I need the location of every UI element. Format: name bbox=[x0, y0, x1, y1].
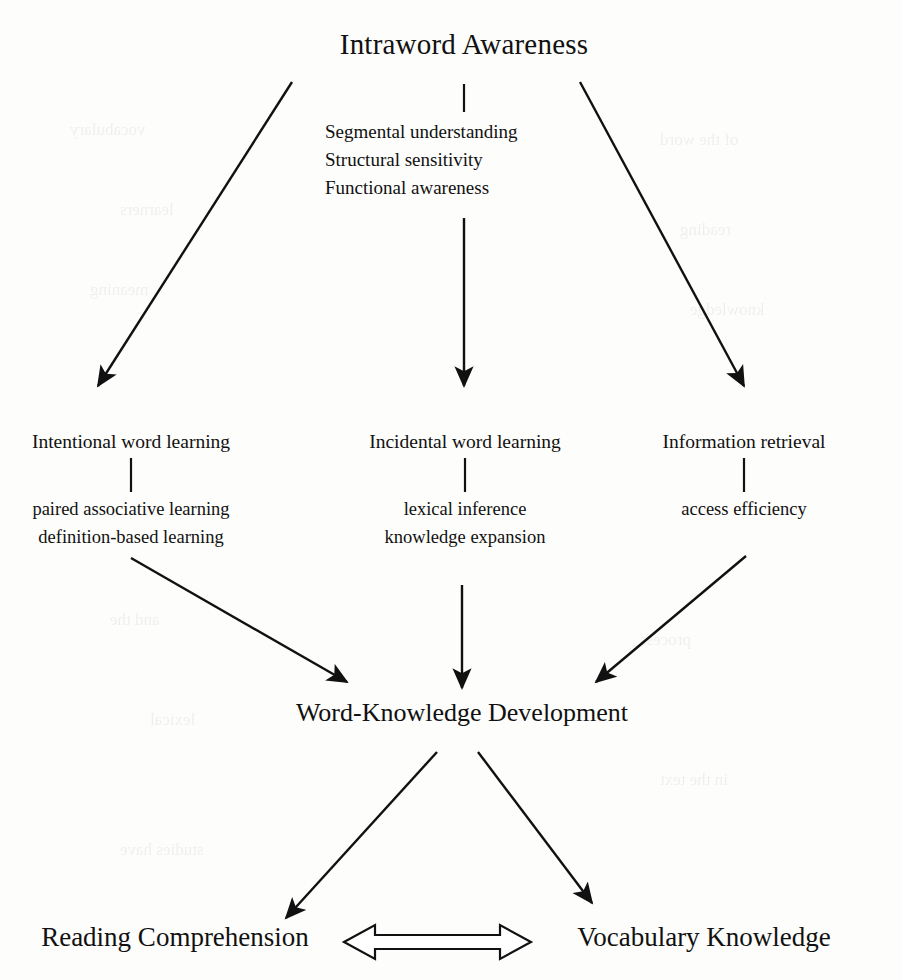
edge-word-knowledge-to-vocabulary-knowledge bbox=[478, 752, 592, 903]
edge-title-to-intentional bbox=[98, 82, 292, 386]
bleed-text: lexical bbox=[150, 700, 195, 740]
branch-sub-item: lexical inference bbox=[385, 495, 546, 523]
bleed-text: process bbox=[640, 620, 691, 660]
branch-sub-incidental-word-learning: lexical inference knowledge expansion bbox=[385, 495, 546, 551]
attribute-list: Segmental understanding Structural sensi… bbox=[325, 118, 518, 202]
bleed-text: vocabulary bbox=[70, 110, 146, 150]
edge-title-to-information-retrieval bbox=[580, 82, 744, 386]
branch-head-intentional-word-learning: Intentional word learning bbox=[32, 431, 230, 453]
node-vocabulary-knowledge: Vocabulary Knowledge bbox=[577, 922, 831, 953]
branch-sub-item: knowledge expansion bbox=[385, 523, 546, 551]
attribute-item: Structural sensitivity bbox=[325, 146, 518, 174]
branch-sub-item: definition-based learning bbox=[32, 523, 229, 551]
bidirectional-arrow-icon bbox=[344, 925, 531, 959]
bleed-text: and the bbox=[110, 600, 160, 640]
edge-intentional-to-word-knowledge bbox=[131, 558, 347, 682]
attribute-item: Segmental understanding bbox=[325, 118, 518, 146]
page-title: Intraword Awareness bbox=[340, 28, 588, 61]
edge-word-knowledge-to-reading-comprehension bbox=[286, 752, 437, 918]
bleed-text: knowledge bbox=[690, 290, 765, 330]
bleed-text: studies have bbox=[120, 830, 204, 870]
bleed-text: reading bbox=[680, 210, 731, 250]
node-word-knowledge-development: Word-Knowledge Development bbox=[296, 698, 628, 728]
branch-sub-intentional-word-learning: paired associative learning definition-b… bbox=[32, 495, 229, 551]
branch-head-incidental-word-learning: Incidental word learning bbox=[369, 431, 561, 453]
node-reading-comprehension: Reading Comprehension bbox=[41, 922, 309, 953]
attribute-item: Functional awareness bbox=[325, 174, 518, 202]
branch-sub-item: access efficiency bbox=[681, 495, 806, 523]
branch-sub-item: paired associative learning bbox=[32, 495, 229, 523]
bleed-text: of the word bbox=[660, 120, 738, 160]
bleed-text: learners bbox=[120, 190, 174, 230]
branch-head-information-retrieval: Information retrieval bbox=[663, 431, 826, 453]
bleed-text: in the text bbox=[660, 760, 728, 800]
bleed-text: meaning bbox=[90, 270, 149, 310]
branch-sub-information-retrieval: access efficiency bbox=[681, 495, 806, 523]
edge-information-retrieval-to-word-knowledge bbox=[596, 556, 746, 682]
diagram-canvas: vocabulary of the word learners reading … bbox=[0, 0, 902, 980]
